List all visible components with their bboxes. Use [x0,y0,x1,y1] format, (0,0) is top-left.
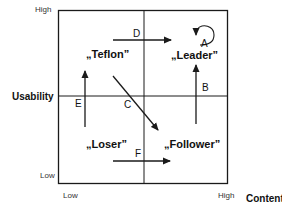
y-axis-title: Usability [12,91,54,102]
y-axis-low-label: Low [40,171,55,180]
quadrant-follower: „Follower” [164,138,220,150]
transition-label-f: F [135,148,141,159]
matrix-frame [59,11,228,184]
quadrant-teflon: „Teflon” [86,48,129,60]
x-axis-high-label: High [218,191,234,200]
arrow-c [113,76,158,130]
quadrant-loser: „Loser” [86,138,127,150]
transition-label-b: B [202,82,209,93]
x-axis-low-label: Low [63,191,78,200]
quadrant-leader: „Leader” [171,49,218,61]
transition-label-c: C [124,99,131,110]
y-axis-high-label: High [35,5,51,14]
transition-label-a: A [201,38,208,49]
matrix-graphic [0,0,282,212]
x-axis-title: Content [246,193,282,204]
transition-label-d: D [133,28,140,39]
transition-label-e: E [75,98,82,109]
